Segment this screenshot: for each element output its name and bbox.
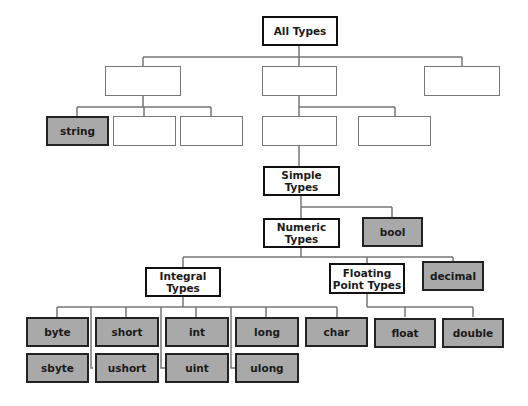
node-floating-point-types: Floating Point Types: [329, 263, 405, 294]
node-blank-reference: [105, 66, 181, 96]
node-sbyte: sbyte: [26, 353, 89, 383]
node-blank-3: [262, 116, 337, 146]
node-short: short: [95, 317, 159, 347]
node-string: string: [46, 116, 109, 146]
node-blank-2: [180, 116, 243, 146]
node-blank-value: [262, 66, 337, 96]
node-double: double: [442, 318, 504, 348]
node-byte: byte: [26, 317, 89, 347]
node-integral-types: Integral Types: [145, 267, 221, 297]
node-ulong: ulong: [235, 353, 299, 383]
node-int: int: [165, 317, 229, 347]
node-float: float: [374, 318, 436, 348]
node-all-types: All Types: [262, 16, 338, 46]
node-blank-pointer: [424, 66, 500, 96]
node-ushort: ushort: [95, 353, 159, 383]
node-long: long: [235, 317, 299, 347]
node-numeric-types: Numeric Types: [263, 218, 340, 248]
node-char: char: [305, 317, 368, 347]
node-bool: bool: [362, 217, 423, 247]
node-blank-1: [113, 116, 176, 146]
node-simple-types: Simple Types: [263, 166, 340, 196]
node-decimal: decimal: [422, 261, 484, 291]
node-uint: uint: [165, 353, 229, 383]
node-blank-4: [358, 116, 431, 146]
